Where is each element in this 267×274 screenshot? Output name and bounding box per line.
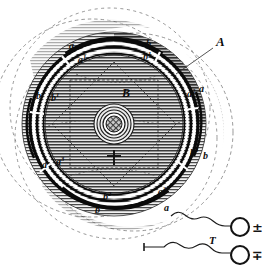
terminal-top-group — [231, 218, 249, 236]
ring-mark-b-lower-right: b — [203, 150, 208, 161]
ring-mark-superscript: 1 — [83, 53, 86, 60]
core-group — [94, 104, 134, 144]
ring-mark-a-lower-left: a — [42, 159, 47, 170]
lead-wire-bottom — [144, 242, 231, 253]
label-B: B — [121, 86, 130, 100]
ring-mark-b-left: b — [36, 90, 41, 101]
engraving-figure: A B T ± ∓ aa1bb1bb1a2aaa3b3bb2ba3a — [0, 0, 267, 274]
lead-wires-group — [144, 212, 243, 253]
ring-mark-a-bottom: a — [164, 202, 169, 213]
terminal-top-circle — [231, 218, 249, 236]
terminal-bottom-circle — [231, 246, 249, 264]
ring-mark-b-top-right: b — [146, 38, 151, 49]
ring-mark-superscript: 1 — [56, 91, 59, 98]
ring-mark-a-right: a — [199, 83, 204, 94]
figure-canvas: A B T ± ∓ aa1bb1bb1a2aaa3b3bb2ba3a — [0, 0, 267, 274]
terminal-bottom-sign: ∓ — [252, 248, 263, 263]
ring-mark-a-top-left: a — [69, 40, 74, 51]
core-hatched-center — [106, 116, 122, 132]
label-T: T — [209, 234, 217, 246]
ring-mark-superscript: 1 — [148, 50, 151, 57]
label-A: A — [215, 34, 225, 49]
terminal-top-sign: ± — [252, 220, 263, 235]
terminal-bottom-group — [231, 246, 249, 264]
ring-mark-b-bottom: b — [95, 204, 100, 215]
